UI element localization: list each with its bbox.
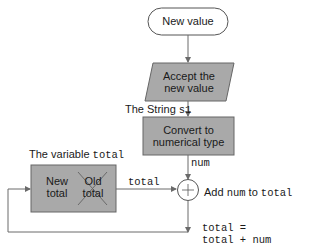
variable-total-label: The variable total — [29, 148, 124, 161]
num-label: num — [191, 157, 210, 169]
assignment-label: total = total + num — [202, 222, 271, 246]
input-label: Accept the new value — [148, 70, 230, 94]
old-total-label: Old total — [74, 175, 112, 199]
arrow-total-label: total — [128, 176, 160, 188]
add-num-label: Add num to total — [204, 186, 292, 199]
string-s1-label: The String s1 — [125, 103, 191, 116]
convert-label: Convert to numerical type — [143, 124, 234, 148]
new-total-label: New total — [38, 175, 76, 199]
start-label: New value — [148, 15, 228, 27]
